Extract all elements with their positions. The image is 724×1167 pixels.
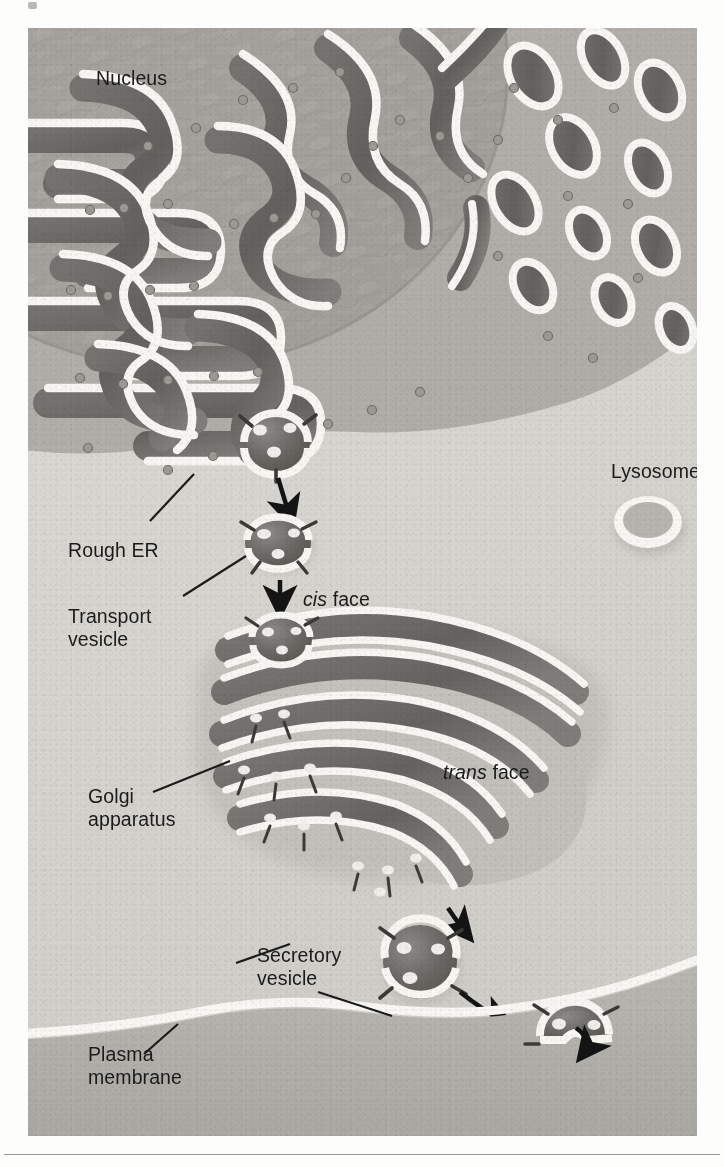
label-plasma-membrane: Plasma membrane <box>88 1043 182 1089</box>
figure-bottom-rule <box>4 1154 720 1155</box>
figure-page: Nucleus Rough ER Transport vesicle cis f… <box>0 0 724 1167</box>
label-trans-face: trans face <box>443 761 530 784</box>
cis-vesicle <box>246 615 318 665</box>
label-cis-face: cis face <box>303 588 370 611</box>
label-lysosome: Lysosome <box>611 460 697 483</box>
label-nucleus: Nucleus <box>96 67 167 90</box>
cell-diagram-figure: Nucleus Rough ER Transport vesicle cis f… <box>28 28 697 1136</box>
cell-diagram-artwork <box>28 28 697 1136</box>
label-secretory-vesicle: Secretory vesicle <box>257 944 341 990</box>
page-top-mark <box>28 2 37 9</box>
label-golgi-apparatus: Golgi apparatus <box>88 785 176 831</box>
label-rough-er: Rough ER <box>68 539 159 562</box>
label-transport-vesicle: Transport vesicle <box>68 605 152 651</box>
